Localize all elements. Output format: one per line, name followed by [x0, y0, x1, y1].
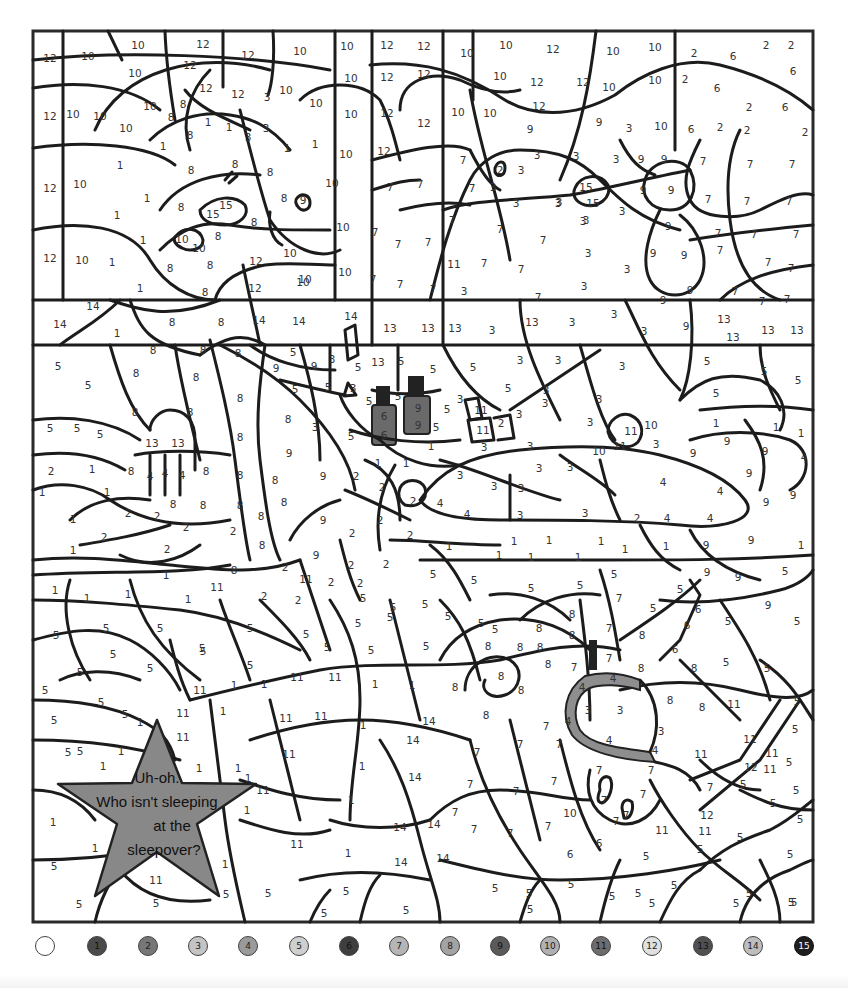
region-label: 8: [167, 262, 174, 274]
region-label: 1: [496, 549, 503, 561]
region-label: 1: [222, 858, 229, 870]
region-label: 8: [237, 392, 244, 404]
region-label: 5: [609, 890, 616, 902]
legend-swatch-14: 14: [743, 936, 763, 956]
region-label: 8: [207, 259, 214, 271]
region-label: 13: [371, 356, 384, 368]
region-label: 7: [513, 785, 520, 797]
region-label: 10: [563, 807, 576, 819]
region-label: 11: [613, 440, 626, 452]
region-label: 3: [613, 153, 620, 165]
region-label: 3: [329, 353, 336, 365]
region-label: 4: [179, 469, 186, 481]
region-label: 15: [206, 208, 219, 220]
region-label: 7: [417, 178, 424, 190]
region-label: 2: [357, 577, 364, 589]
region-label: 9: [313, 549, 320, 561]
region-label: 13: [525, 316, 538, 328]
region-label: 5: [290, 346, 297, 358]
region-label: 1: [312, 138, 319, 150]
region-label: 9: [703, 539, 710, 551]
region-label: 2: [788, 39, 795, 51]
region-label: 2: [410, 495, 417, 507]
region-label: 3: [263, 122, 270, 134]
region-label: 1: [345, 847, 352, 859]
region-label: 7: [789, 158, 796, 170]
region-label: 12: [43, 52, 56, 64]
region-label: 13: [145, 437, 158, 449]
region-label: 10: [309, 97, 322, 109]
region-label: 5: [77, 745, 84, 757]
region-label: 8: [518, 684, 525, 696]
region-label: 3: [624, 263, 631, 275]
region-label: 5: [321, 907, 328, 919]
region-label: 3: [573, 150, 580, 162]
region-label: 5: [787, 848, 794, 860]
region-label: 7: [497, 223, 504, 235]
region-label: 8: [452, 681, 459, 693]
region-label: 5: [635, 887, 642, 899]
region-label: 3: [555, 354, 562, 366]
region-label: 8: [150, 344, 157, 356]
region-label: 8: [169, 316, 176, 328]
region-label: 3: [641, 325, 648, 337]
region-label: 9: [286, 447, 293, 459]
region-label: 12: [43, 110, 56, 122]
region-label: 12: [380, 39, 393, 51]
region-label: 11: [210, 581, 223, 593]
region-label: 1: [446, 540, 453, 552]
region-label: 12: [380, 71, 393, 83]
region-label: 1: [231, 679, 238, 691]
region-label: 1: [798, 427, 805, 439]
region-label: 5: [671, 879, 678, 891]
region-label: 3: [585, 247, 592, 259]
region-label: 11: [474, 404, 487, 416]
region-label: 10: [592, 445, 605, 457]
region-label: 10: [460, 47, 473, 59]
region-label: 1: [798, 539, 805, 551]
region-label: 5: [713, 387, 720, 399]
region-label: 3: [611, 308, 618, 320]
region-label: 12: [241, 49, 254, 61]
region-label: 5: [223, 888, 230, 900]
region-label: 7: [551, 775, 558, 787]
region-label: 8: [536, 622, 543, 634]
region-label: 4: [464, 508, 471, 520]
region-label: 8: [235, 347, 242, 359]
region-label: 9: [320, 514, 327, 526]
region-label: 8: [667, 694, 674, 706]
region-label: 11: [624, 425, 637, 437]
region-label: 7: [425, 236, 432, 248]
region-label: 12: [377, 145, 390, 157]
region-label: 4: [606, 734, 613, 746]
region-label: 9: [415, 402, 422, 414]
region-label: 8: [180, 98, 187, 110]
region-label: 1: [360, 719, 367, 731]
region-label: 5: [786, 756, 793, 768]
region-label: 3: [626, 122, 633, 134]
region-label: 3: [582, 507, 589, 519]
region-label: 5: [788, 896, 795, 908]
region-label: 8: [638, 662, 645, 674]
region-label: 2: [125, 507, 132, 519]
region-label: 3: [587, 416, 594, 428]
region-label: 5: [725, 615, 732, 627]
region-label: 1: [114, 209, 121, 221]
region-label: 1: [348, 794, 355, 806]
region-label: 7: [540, 234, 547, 246]
region-label: 8: [232, 158, 239, 170]
region-label: 12: [576, 76, 589, 88]
region-label: 4: [660, 476, 667, 488]
region-label: 8: [483, 709, 490, 721]
region-label: 3: [585, 704, 592, 716]
region-label: 8: [132, 406, 139, 418]
region-label: 12: [417, 40, 430, 52]
region-label: 11: [743, 733, 756, 745]
region-label: 1: [52, 584, 59, 596]
region-label: 7: [700, 155, 707, 167]
region-label: 9: [638, 153, 645, 165]
region-label: 5: [55, 360, 62, 372]
region-label: 4: [801, 451, 808, 463]
region-label: 7: [543, 720, 550, 732]
legend-swatch-10: 10: [540, 936, 560, 956]
